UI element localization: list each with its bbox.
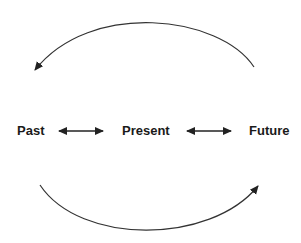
node-past: Past	[17, 122, 44, 140]
bottom-curved-arrow	[40, 185, 258, 230]
top-curved-arrow	[35, 23, 254, 70]
node-future: Future	[249, 122, 289, 140]
node-present: Present	[122, 122, 170, 140]
